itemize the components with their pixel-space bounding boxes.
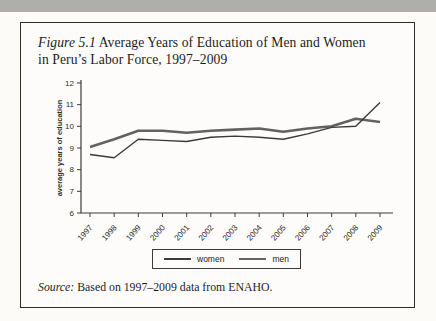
x-tick-label: 2002 xyxy=(197,223,216,243)
x-tick-label: 2004 xyxy=(245,223,264,243)
x-tick-label: 2009 xyxy=(366,223,385,243)
book-page: Figure 5.1 Average Years of Education of… xyxy=(0,12,436,321)
chart-legend: women men xyxy=(152,249,301,269)
legend-item-women: women xyxy=(164,254,224,264)
y-tick-label: 9 xyxy=(70,144,75,153)
women-line-swatch xyxy=(164,258,191,259)
figure-number: Figure 5.1 xyxy=(38,35,96,50)
x-tick-label: 2006 xyxy=(293,223,312,243)
legend-label-women: women xyxy=(197,254,224,264)
x-tick-label: 2008 xyxy=(342,223,361,243)
x-tick-label: 2003 xyxy=(221,223,240,243)
x-tick-label: 1999 xyxy=(124,223,143,243)
y-tick-label: 10 xyxy=(65,122,74,131)
x-tick-label: 2001 xyxy=(173,223,192,243)
x-tick-label: 2000 xyxy=(148,223,167,243)
legend-item-men: men xyxy=(239,254,289,264)
source-text: Based on 1997–2009 data from ENAHO. xyxy=(74,280,272,294)
x-tick-label: 1998 xyxy=(100,223,119,243)
source-note: Source: Based on 1997–2009 data from ENA… xyxy=(38,280,398,295)
figure-title: Figure 5.1 Average Years of Education of… xyxy=(38,34,403,69)
men-line-swatch xyxy=(239,258,266,261)
y-tick-label: 12 xyxy=(65,79,74,88)
figure-frame: Figure 5.1 Average Years of Education of… xyxy=(20,22,415,308)
figure-title-line1: Average Years of Education of Men and Wo… xyxy=(96,35,366,50)
legend-label-men: men xyxy=(272,254,289,264)
x-tick-label: 1997 xyxy=(76,223,95,243)
y-tick-label: 7 xyxy=(70,187,75,196)
x-tick-label: 2007 xyxy=(318,223,337,243)
y-tick-label: 11 xyxy=(66,100,75,109)
education-line-chart: 6789101112199719981999200020012002200320… xyxy=(31,75,423,247)
y-tick-label: 8 xyxy=(70,165,75,174)
y-tick-label: 6 xyxy=(70,209,75,218)
y-axis-label: average years of education xyxy=(55,99,64,196)
source-label: Source: xyxy=(38,280,74,294)
figure-title-line2: in Peru’s Labor Force, 1997–2009 xyxy=(38,52,227,67)
x-tick-label: 2005 xyxy=(269,223,288,243)
